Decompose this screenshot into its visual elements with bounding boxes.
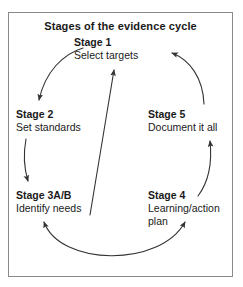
stage-title: Stage 1	[74, 36, 138, 49]
stage-description: Document it all	[148, 121, 217, 134]
stage-node-stage4: Stage 4 Learning/action plan	[148, 189, 226, 228]
figure-title: Stages of the evidence cycle	[8, 20, 233, 32]
stage-title: Stage 2	[16, 108, 81, 121]
stage-node-stage1: Stage 1 Select targets	[74, 36, 138, 62]
stage-description: Learning/action plan	[148, 202, 226, 228]
stage-description: Select targets	[74, 49, 138, 62]
stage-title: Stage 4	[148, 189, 226, 202]
stage-description: Set standards	[16, 121, 81, 134]
stage-title: Stage 3A/B	[16, 189, 81, 202]
stage-title: Stage 5	[148, 108, 217, 121]
stage-node-stage5: Stage 5 Document it all	[148, 108, 217, 134]
stage-description: Identify needs	[16, 202, 81, 215]
stage-node-stage3: Stage 3A/B Identify needs	[16, 189, 81, 215]
figure-root: Stages of the evidence cycle Stage 1 Sel…	[0, 0, 243, 287]
stage-node-stage2: Stage 2 Set standards	[16, 108, 81, 134]
